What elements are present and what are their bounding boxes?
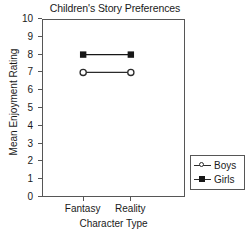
line-chart: Children's Story Preferences Mean Enjoym… [0, 0, 250, 239]
y-tick: 1 [0, 173, 42, 185]
x-axis-title: Character Type [42, 218, 185, 230]
legend-label-girls: Girls [211, 174, 235, 186]
y-tick: 4 [0, 120, 42, 132]
y-tick-mark [38, 36, 42, 37]
y-tick-label: 6 [27, 84, 33, 96]
y-tick-label: 4 [27, 120, 33, 132]
y-tick-label: 2 [27, 155, 33, 167]
legend-item-boys: Boys [194, 158, 244, 173]
y-tick-mark [38, 125, 42, 126]
y-tick-label: 1 [27, 173, 33, 185]
y-tick: 0 [0, 191, 42, 203]
y-tick-mark [38, 160, 42, 161]
open-circle-marker-icon [194, 160, 211, 172]
y-tick-mark [38, 178, 42, 179]
y-tick-mark [38, 107, 42, 108]
plot-area [42, 19, 185, 197]
y-tick-label: 7 [27, 66, 33, 78]
legend-item-girls: Girls [194, 172, 244, 187]
y-tick: 2 [0, 155, 42, 167]
y-tick-label: 8 [27, 49, 33, 61]
legend-label-boys: Boys [211, 160, 236, 172]
y-tick: 8 [0, 49, 42, 61]
y-tick: 7 [0, 66, 42, 78]
y-tick-label: 3 [27, 138, 33, 150]
x-tick-label: Reality [95, 203, 165, 215]
y-tick: 6 [0, 84, 42, 96]
y-tick: 5 [0, 102, 42, 114]
y-tick: 10 [0, 13, 42, 25]
y-tick-mark [38, 196, 42, 197]
y-tick-label: 5 [27, 102, 33, 114]
y-tick-label: 9 [27, 31, 33, 43]
y-tick-mark [38, 89, 42, 90]
y-tick-label: 0 [27, 191, 33, 203]
y-tick-mark [38, 71, 42, 72]
y-tick-label: 10 [22, 13, 33, 25]
x-tick-mark [130, 197, 131, 201]
filled-square-marker-icon [194, 174, 211, 186]
x-tick-mark [83, 197, 84, 201]
chart-title: Children's Story Preferences [44, 2, 186, 15]
y-tick-mark [38, 143, 42, 144]
legend: Boys Girls [190, 155, 245, 190]
y-tick-mark [38, 18, 42, 19]
y-tick-mark [38, 54, 42, 55]
y-tick: 9 [0, 31, 42, 43]
y-tick: 3 [0, 138, 42, 150]
